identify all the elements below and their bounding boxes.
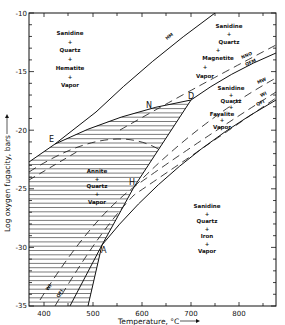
svg-text:Sanidine: Sanidine bbox=[216, 23, 243, 29]
wi-low-label: WI bbox=[45, 283, 53, 292]
hematite-field-label: Sanidine + Quartz + Hematite + Vapor bbox=[56, 30, 85, 89]
wi-label: WI bbox=[259, 91, 267, 98]
y-axis-title: Log oxygen fugacity, bars bbox=[3, 114, 12, 232]
x-tick-800: 800 bbox=[232, 310, 245, 318]
y-tick-minus20: -20 bbox=[16, 127, 27, 135]
x-tick-700: 700 bbox=[184, 310, 197, 318]
svg-text:Iron: Iron bbox=[201, 233, 214, 239]
svg-text:+: + bbox=[205, 211, 210, 217]
annite-field-dashed-1 bbox=[29, 150, 80, 180]
svg-text:+: + bbox=[68, 56, 73, 62]
svg-text:+: + bbox=[220, 117, 225, 123]
hm-label: HM bbox=[165, 31, 175, 40]
x-axis-title: Temperature, °C bbox=[117, 317, 200, 325]
svg-text:Quartz: Quartz bbox=[60, 47, 81, 53]
svg-text:Sanidine: Sanidine bbox=[218, 85, 245, 91]
x-tick-400: 400 bbox=[37, 310, 50, 318]
y-tick-minus10: -10 bbox=[16, 10, 27, 18]
svg-text:+: + bbox=[216, 47, 221, 53]
svg-text:+: + bbox=[68, 74, 73, 80]
svg-text:+: + bbox=[95, 176, 100, 182]
svg-text:Hematite: Hematite bbox=[56, 65, 85, 71]
svg-text:Annite: Annite bbox=[87, 168, 108, 174]
svg-text:Vapor: Vapor bbox=[88, 199, 106, 206]
svg-text:Quartz: Quartz bbox=[87, 183, 108, 189]
y-tick-minus25: -25 bbox=[16, 185, 27, 193]
point-e: E bbox=[49, 135, 54, 144]
svg-text:+: + bbox=[203, 64, 208, 70]
annite-upper-boundary bbox=[55, 100, 191, 144]
svg-text:Vapor: Vapor bbox=[198, 248, 216, 255]
svg-text:Vapor: Vapor bbox=[213, 124, 231, 131]
svg-text:+: + bbox=[68, 39, 73, 45]
x-tick-500: 500 bbox=[86, 310, 99, 318]
phase-diagram: 400 500 600 700 800 -10 -15 -20 -25 -30 … bbox=[0, 0, 285, 325]
svg-text:+: + bbox=[229, 104, 234, 110]
svg-text:+: + bbox=[205, 241, 210, 247]
wi-curve bbox=[40, 92, 276, 300]
svg-text:Magnetite: Magnetite bbox=[202, 55, 234, 62]
svg-text:Sanidine: Sanidine bbox=[194, 203, 221, 209]
svg-text:Vapor: Vapor bbox=[196, 73, 214, 80]
y-tick-minus15: -15 bbox=[16, 68, 27, 76]
mw-label: MW bbox=[256, 76, 267, 84]
y-tick-minus30: -30 bbox=[16, 244, 27, 252]
svg-text:Temperature, °C: Temperature, °C bbox=[117, 317, 179, 325]
qfm-label: QFM bbox=[244, 58, 257, 67]
point-d: D bbox=[188, 92, 194, 101]
point-n: N bbox=[146, 101, 152, 110]
svg-text:Vapor: Vapor bbox=[61, 82, 79, 89]
qfi-boundary-curve bbox=[60, 100, 276, 325]
svg-text:Quartz: Quartz bbox=[219, 39, 240, 45]
svg-text:Quartz: Quartz bbox=[197, 218, 218, 224]
annite-field-label: Annite + Quartz + Vapor bbox=[87, 168, 108, 206]
svg-text:+: + bbox=[95, 191, 100, 197]
point-a: A bbox=[101, 246, 107, 255]
point-h: H bbox=[129, 178, 135, 187]
svg-text:Log oxygen fugacity, bars: Log oxygen fugacity, bars bbox=[3, 135, 12, 232]
mw-curve bbox=[29, 78, 276, 187]
annite-field-hatching bbox=[29, 100, 200, 302]
svg-text:Sanidine: Sanidine bbox=[57, 30, 84, 36]
y-tick-minus35: -35 bbox=[16, 302, 27, 310]
svg-text:+: + bbox=[227, 31, 232, 37]
magnetite-field-label: Sanidine + Quartz + Magnetite + Vapor bbox=[196, 23, 243, 80]
svg-text:+: + bbox=[205, 226, 210, 232]
iron-field-label: Sanidine + Quartz + Iron + Vapor bbox=[194, 203, 221, 255]
